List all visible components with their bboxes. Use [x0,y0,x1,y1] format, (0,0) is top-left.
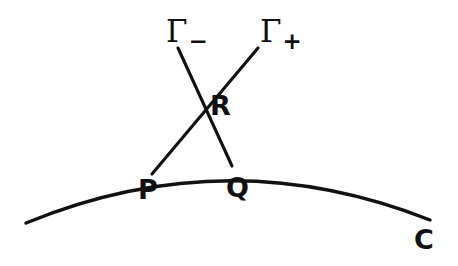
label-gamma-minus-subscript: − [189,28,208,54]
diagram-svg [0,0,458,266]
label-point-p: P [138,176,158,203]
label-point-r: R [210,92,231,119]
label-point-q: Q [226,174,249,201]
label-gamma-plus-base: Γ [260,13,282,49]
label-gamma-minus: Γ− [166,16,208,53]
line-gamma-plus [152,48,258,174]
label-gamma-plus: Γ+ [260,16,302,53]
label-gamma-plus-subscript: + [283,28,302,54]
figure-canvas: Γ− Γ+ R P Q C [0,0,458,266]
label-curve-c: C [414,226,434,253]
label-gamma-minus-base: Γ [166,13,188,49]
